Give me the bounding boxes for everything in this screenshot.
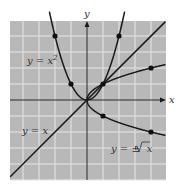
- data-point-marker: [148, 129, 153, 134]
- sqrt-label: y = ±x: [110, 142, 153, 154]
- line-label: y = x: [21, 125, 48, 136]
- x-axis-label: x: [169, 94, 175, 105]
- data-point-marker: [68, 81, 73, 86]
- data-point-marker: [52, 33, 57, 38]
- y-axis-label: y: [83, 8, 90, 19]
- data-point-marker: [100, 113, 105, 118]
- data-point-marker: [148, 65, 153, 70]
- function-graph: x y y = x2 y = x y = ±x: [0, 0, 183, 193]
- data-point-marker: [100, 81, 105, 86]
- svg-text:y = ±x: y = ±x: [110, 143, 153, 154]
- data-point-marker: [116, 33, 121, 38]
